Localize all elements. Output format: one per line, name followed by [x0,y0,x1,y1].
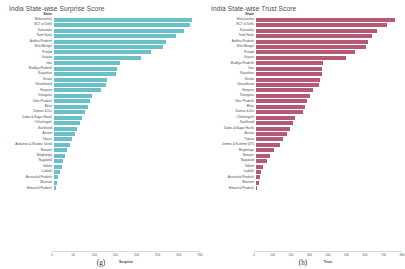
bar[interactable] [256,78,320,82]
panel-trust: India State-wise Trust Score State Mahar… [202,0,404,269]
bar[interactable] [256,148,274,152]
bar[interactable] [256,99,307,103]
caption-g: (g) [0,259,202,267]
bar[interactable] [54,61,120,65]
bar[interactable] [256,137,283,141]
bar-cell [256,186,402,191]
bar[interactable] [54,23,190,27]
x-tick-label: 200 [134,251,139,257]
bar[interactable] [54,56,141,60]
bar[interactable] [54,40,166,44]
x-tick-label: 100 [92,251,97,257]
bar[interactable] [54,186,56,190]
bar[interactable] [54,88,101,92]
bar-row[interactable]: Himachal Pradesh [202,186,402,191]
panel-title-surprise: India State-wise Surprise Score [0,0,202,12]
plot-area-trust: State MaharashtraNCT of DelhiKarnatakaTa… [202,12,404,269]
bar[interactable] [54,137,72,141]
x-tick-label: 300 [307,251,312,257]
x-tick-label: 600 [362,251,367,257]
bar[interactable] [54,143,70,147]
x-tick-label: 700 [381,251,386,257]
bar[interactable] [256,159,267,163]
bar[interactable] [256,67,322,71]
x-tick-label: 400 [325,251,330,257]
bar[interactable] [54,148,67,152]
x-tick-label: 300 [176,251,181,257]
bar[interactable] [54,67,117,71]
bar[interactable] [256,116,295,120]
bar[interactable] [256,110,303,114]
bar[interactable] [54,83,106,87]
bar-row-label: Himachal Pradesh [0,186,54,191]
plot-area-surprise: State MaharashtraNCT of DelhiKarnatakaTa… [0,12,202,269]
bar[interactable] [256,165,263,169]
bar[interactable] [256,29,377,33]
bar[interactable] [54,18,192,22]
bar[interactable] [256,83,319,87]
column-header-state-right: State [202,12,254,16]
caption-h: (h) [202,259,404,267]
x-tick-label: 200 [288,251,293,257]
bar[interactable] [256,121,293,125]
column-header-state-left: State [0,12,52,16]
panel-surprise: India State-wise Surprise Score State Ma… [0,0,202,269]
bar[interactable] [256,127,290,131]
bar[interactable] [256,50,355,54]
bar[interactable] [54,170,60,174]
x-tick-label: 50 [71,251,74,257]
bar[interactable] [54,165,62,169]
bar[interactable] [256,23,387,27]
x-tick-label: 150 [113,251,118,257]
panel-title-trust: India State-wise Trust Score [202,0,404,12]
bar[interactable] [256,94,310,98]
bar[interactable] [256,40,368,44]
bar[interactable] [256,154,270,158]
bar-cell [54,186,200,191]
bar[interactable] [54,94,92,98]
x-tick-label: 250 [155,251,160,257]
bar[interactable] [54,50,151,54]
bar[interactable] [54,45,163,49]
bar[interactable] [256,175,260,179]
bar[interactable] [256,181,259,185]
bar[interactable] [54,78,107,82]
bar-rows-trust: MaharashtraNCT of DelhiKarnatakaTamil Na… [202,17,402,191]
bar[interactable] [54,175,58,179]
bar[interactable] [256,18,395,22]
bar-rows-surprise: MaharashtraNCT of DelhiKarnatakaTamil Na… [0,17,200,191]
bar[interactable] [54,72,116,76]
bar[interactable] [256,88,313,92]
bar[interactable] [256,61,323,65]
bar[interactable] [256,34,372,38]
bar[interactable] [54,181,57,185]
bar[interactable] [54,105,88,109]
bar[interactable] [54,154,65,158]
bar[interactable] [54,132,75,136]
bar[interactable] [54,121,80,125]
bar-row-label: Himachal Pradesh [202,186,256,191]
bar[interactable] [256,56,346,60]
bar[interactable] [256,170,261,174]
bar[interactable] [256,132,287,136]
bar-row[interactable]: Himachal Pradesh [0,186,200,191]
x-tick-label: 0 [51,251,53,257]
bar[interactable] [54,110,85,114]
bar[interactable] [54,99,90,103]
bar[interactable] [256,143,280,147]
bar[interactable] [256,105,305,109]
bar[interactable] [54,34,176,38]
x-tick-label: 500 [344,251,349,257]
bar[interactable] [54,116,82,120]
bar[interactable] [54,127,77,131]
bar[interactable] [256,72,322,76]
x-tick-label: 100 [270,251,275,257]
bar[interactable] [54,159,63,163]
x-tick-label: 800 [399,251,404,257]
bar[interactable] [256,45,366,49]
bar[interactable] [256,186,257,190]
x-tick-label: 0 [253,251,255,257]
bar[interactable] [54,29,184,33]
